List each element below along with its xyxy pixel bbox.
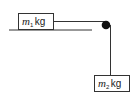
block-m1: m1kg (19, 14, 54, 30)
pulley-diagram: m1kg m2kg (0, 0, 136, 101)
pulley-icon (102, 21, 111, 30)
block-m2: m2kg (95, 76, 130, 92)
